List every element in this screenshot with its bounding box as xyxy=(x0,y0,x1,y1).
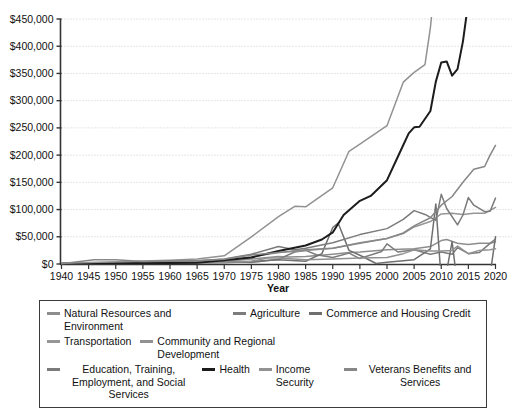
legend-line-swatch-icon xyxy=(259,368,272,371)
y-axis-tick-label: $300,000 xyxy=(10,94,54,106)
legend-entry[interactable]: Natural Resources and Environment xyxy=(47,307,224,332)
legend-label: Community and Regional Development xyxy=(157,335,317,360)
legend-entry[interactable]: Education, Training, Employment, and Soc… xyxy=(47,363,193,401)
x-axis-tick-label: 1970 xyxy=(213,270,237,282)
x-axis-tick-label: 1985 xyxy=(294,270,318,282)
x-axis-tick-labels: 1940194519501955196019651970197519801985… xyxy=(50,270,508,282)
legend-entry[interactable]: Commerce and Housing Credit xyxy=(309,307,470,320)
x-axis-tick-label: 1950 xyxy=(104,270,128,282)
legend-line-swatch-icon xyxy=(47,340,60,343)
y-axis-tick-label: $450,000 xyxy=(10,13,54,25)
legend-line-swatch-icon xyxy=(202,368,215,371)
data-series-group xyxy=(62,0,496,286)
x-axis-tick-label: 2005 xyxy=(402,270,426,282)
legend-line-swatch-icon xyxy=(47,312,60,315)
data-series-line xyxy=(62,0,496,264)
legend-label: Transportation xyxy=(64,335,131,348)
x-axis-tick-label: 1965 xyxy=(185,270,209,282)
y-axis-tick-label: $400,000 xyxy=(10,40,54,52)
legend-entry[interactable]: Transportation xyxy=(47,335,131,348)
x-axis-tick-label: 1955 xyxy=(131,270,155,282)
legend-entry[interactable]: Community and Regional Development xyxy=(140,335,317,360)
line-chart-plot: $0$50,000$100,000$150,000$200,000$250,00… xyxy=(0,0,530,300)
y-axis-tick-label: $200,000 xyxy=(10,149,54,161)
legend-line-swatch-icon xyxy=(47,368,60,371)
y-axis-tick-label: $350,000 xyxy=(10,67,54,79)
x-axis-tick-label: 1945 xyxy=(77,270,101,282)
legend-label: Health xyxy=(219,363,249,376)
legend-entry[interactable]: Veterans Benefits and Services xyxy=(344,363,479,388)
legend-label: Commerce and Housing Credit xyxy=(326,307,470,320)
x-axis-tick-label: 1990 xyxy=(321,270,345,282)
x-axis-tick-label: 2020 xyxy=(484,270,508,282)
y-axis-tick-label: $0 xyxy=(42,258,54,270)
x-axis-tick-label: 2010 xyxy=(430,270,454,282)
y-axis-tick-label: $50,000 xyxy=(16,230,54,242)
legend-label: Veterans Benefits and Services xyxy=(361,363,479,388)
legend-label: Natural Resources and Environment xyxy=(64,307,224,332)
legend-row: Natural Resources and EnvironmentAgricul… xyxy=(47,307,479,332)
legend-row: Education, Training, Employment, and Soc… xyxy=(47,363,479,401)
legend-row: TransportationCommunity and Regional Dev… xyxy=(47,335,479,360)
legend-entry[interactable]: Agriculture xyxy=(233,307,300,320)
data-series-line xyxy=(62,0,496,263)
y-axis-tick-label: $150,000 xyxy=(10,176,54,188)
x-axis-tick-label: 1975 xyxy=(240,270,264,282)
y-axis-tick-label: $250,000 xyxy=(10,121,54,133)
legend-entry[interactable]: Health xyxy=(202,363,249,376)
legend-label: Income Security xyxy=(276,363,335,388)
legend-line-swatch-icon xyxy=(344,368,357,371)
x-axis-tick-label: 1995 xyxy=(348,270,372,282)
legend-label: Education, Training, Employment, and Soc… xyxy=(64,363,193,401)
x-axis-tick-label: 1940 xyxy=(50,270,74,282)
x-axis-tick-label: 1960 xyxy=(158,270,182,282)
legend-line-swatch-icon xyxy=(233,312,246,315)
legend-label: Agriculture xyxy=(250,307,300,320)
legend-line-swatch-icon xyxy=(309,312,322,315)
x-axis-title: Year xyxy=(267,282,289,294)
x-axis-tick-label: 2015 xyxy=(457,270,481,282)
x-axis-tick-label: 2000 xyxy=(375,270,399,282)
legend-entry[interactable]: Income Security xyxy=(259,363,335,388)
y-axis-tick-label: $100,000 xyxy=(10,203,54,215)
x-axis-tick-label: 1980 xyxy=(267,270,291,282)
legend-line-swatch-icon xyxy=(140,340,153,343)
y-axis-tick-labels: $0$50,000$100,000$150,000$200,000$250,00… xyxy=(10,13,54,270)
chart-legend: Natural Resources and EnvironmentAgricul… xyxy=(39,300,487,408)
